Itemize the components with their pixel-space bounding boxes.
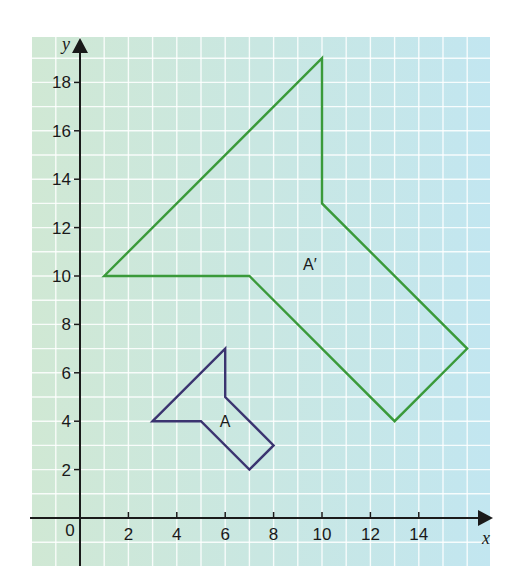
y-tick-label: 16 (52, 122, 71, 141)
y-tick-label: 2 (62, 461, 71, 480)
origin-label: 0 (65, 521, 74, 540)
x-axis-label: x (481, 528, 490, 548)
y-tick-label: 10 (52, 267, 71, 286)
x-tick-label: 10 (313, 525, 332, 544)
x-tick-label: 6 (220, 525, 229, 544)
x-tick-label: 12 (361, 525, 380, 544)
x-tick-label: 8 (269, 525, 278, 544)
y-tick-label: 18 (52, 73, 71, 92)
y-tick-label: 12 (52, 219, 71, 238)
chart: AA′ 2468101214246810121416180xy (0, 0, 511, 585)
shape-label: A (220, 413, 231, 430)
y-axis-label: y (60, 34, 70, 54)
x-tick-label: 14 (409, 525, 428, 544)
y-tick-label: 8 (62, 315, 71, 334)
x-tick-label: 2 (124, 525, 133, 544)
y-tick-label: 14 (52, 170, 71, 189)
y-tick-label: 6 (62, 364, 71, 383)
x-tick-label: 4 (172, 525, 181, 544)
shape-label: A′ (303, 256, 317, 273)
y-tick-label: 4 (62, 412, 71, 431)
